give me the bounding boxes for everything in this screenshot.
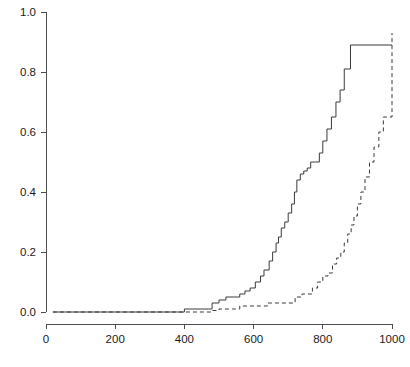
y-axis: 0.00.20.40.60.81.0 [20,6,46,318]
x-tick-label: 800 [313,333,332,345]
x-tick-label: 400 [175,333,194,345]
y-tick-label: 0.6 [20,126,36,138]
y-tick-label: 1.0 [20,6,36,18]
x-axis: 02004006008001000 [43,324,405,345]
x-tick-label: 1000 [379,333,405,345]
y-tick-label: 0.2 [20,246,36,258]
data-series-group [53,33,392,312]
chart-svg: 0.00.20.40.60.81.0 02004006008001000 [0,0,410,367]
x-tick-label: 0 [43,333,49,345]
chart-canvas: 0.00.20.40.60.81.0 02004006008001000 [0,0,410,367]
y-tick-label: 0.8 [20,66,36,78]
y-axis-ticks: 0.00.20.40.60.81.0 [20,6,46,318]
series-solid-step-curve [53,45,392,312]
x-tick-label: 200 [106,333,125,345]
x-tick-label: 600 [244,333,263,345]
y-tick-label: 0.4 [20,186,37,198]
x-axis-ticks: 02004006008001000 [43,324,405,345]
series-dashed-step-curve [53,33,392,312]
y-tick-label: 0.0 [20,306,36,318]
